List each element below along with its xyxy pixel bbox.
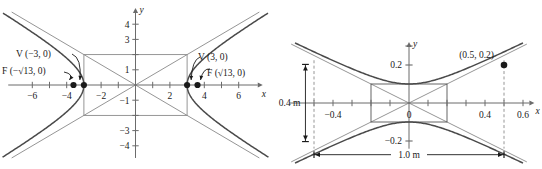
svg-text:−0.2: −0.2 (385, 136, 402, 146)
svg-text:−4: −4 (119, 141, 129, 151)
y-axis-label: y (139, 5, 145, 15)
x-axis-arrow (258, 82, 263, 87)
svg-text:0.4: 0.4 (479, 110, 491, 120)
svg-text:−6: −6 (27, 91, 37, 101)
svg-text:3: 3 (125, 35, 130, 45)
annotation-vertex-right-label: V (3, 0) (198, 52, 228, 63)
svg-text:4: 4 (125, 20, 130, 30)
annotation-leader-lines (64, 54, 210, 80)
axis-ticks (314, 46, 523, 141)
figure-left-svg: −6−4−2246431−1−3−4 x y V (−3, 0) F (−√13… (0, 0, 271, 169)
svg-text:1: 1 (125, 65, 130, 75)
dimension-label-height: 0.4 m (279, 98, 301, 108)
svg-text:2: 2 (168, 91, 173, 101)
y-axis-arrow (133, 8, 138, 13)
figure-right-svg: −0.400.40.60.2−0.2 x y (0.5, 0.2) 0.4 m … (271, 0, 542, 169)
x-axis-label: x (261, 89, 267, 99)
svg-text:0.2: 0.2 (390, 60, 402, 70)
annotation-vertex-left-label: V (−3, 0) (16, 49, 51, 60)
x-axis-arrow (529, 100, 534, 105)
svg-text:0.6: 0.6 (517, 110, 529, 120)
y-axis-label: y (412, 39, 418, 49)
figure-right-hyperbola: −0.400.40.60.2−0.2 x y (0.5, 0.2) 0.4 m … (271, 0, 542, 169)
svg-text:0: 0 (407, 110, 412, 120)
svg-text:−3: −3 (119, 126, 129, 136)
point-label-05-02: (0.5, 0.2) (459, 50, 494, 61)
svg-text:6: 6 (236, 91, 241, 101)
svg-text:−0.4: −0.4 (324, 110, 341, 120)
figure-left-hyperbola: −6−4−2246431−1−3−4 x y V (−3, 0) F (−√13… (0, 0, 271, 169)
annotation-focus-left-label: F (−√13, 0) (2, 66, 46, 77)
x-axis-label: x (534, 106, 540, 116)
svg-text:−4: −4 (62, 91, 72, 101)
annotation-focus-right-label: F (√13, 0) (207, 68, 245, 79)
svg-text:−1: −1 (119, 96, 129, 106)
marked-points (501, 62, 508, 69)
svg-text:4: 4 (202, 91, 207, 101)
svg-text:−2: −2 (96, 91, 106, 101)
figure-pair-container: −6−4−2246431−1−3−4 x y V (−3, 0) F (−√13… (0, 0, 542, 169)
dimension-label-width: 1.0 m (398, 150, 420, 160)
